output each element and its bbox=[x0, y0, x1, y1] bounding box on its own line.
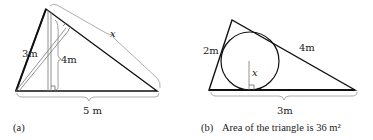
figure-a: 3m 4m x 5 m (a) bbox=[13, 4, 160, 134]
incircle-b bbox=[221, 32, 279, 90]
label-hypotenuse-a: x bbox=[110, 28, 116, 39]
base-brace-b bbox=[211, 92, 357, 100]
geometry-figures: 3m 4m x 5 m (a) 2m 4m x 3m (b) Area of t… bbox=[0, 0, 373, 140]
label-side-left-a: 3m bbox=[22, 48, 38, 59]
triangle-b bbox=[209, 20, 355, 90]
label-side-left-b: 2m bbox=[203, 45, 219, 56]
label-base-a: 5 m bbox=[83, 105, 103, 116]
hypotenuse-brace-a bbox=[50, 4, 160, 88]
label-side-right-b: 4m bbox=[299, 42, 315, 53]
right-angle-marker-a1 bbox=[51, 86, 55, 91]
figure-b: 2m 4m x 3m (b) Area of the triangle is 3… bbox=[201, 20, 357, 134]
caption-b-label: (b) bbox=[201, 122, 214, 134]
caption-b-text: Area of the triangle is 36 m² bbox=[222, 122, 341, 133]
label-altitude-a: 4m bbox=[61, 54, 77, 65]
label-radius-b: x bbox=[252, 67, 258, 78]
label-base-b: 3m bbox=[277, 105, 293, 116]
base-brace-a bbox=[17, 93, 159, 101]
caption-a: (a) bbox=[13, 122, 25, 134]
